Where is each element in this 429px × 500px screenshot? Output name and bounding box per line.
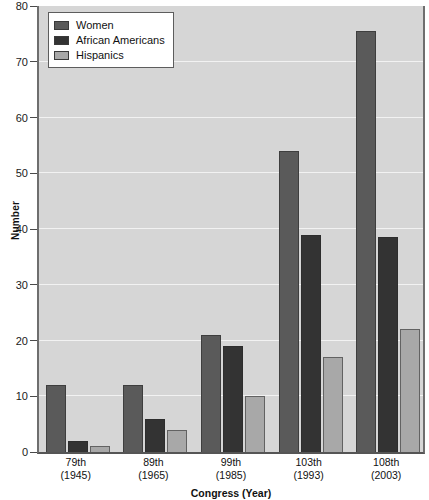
bar-chart: Number 01020304050607080 WomenAfrican Am… xyxy=(0,0,429,500)
bar xyxy=(279,151,299,452)
y-axis-tick-mark xyxy=(30,284,37,285)
y-axis-tick-label: 40 xyxy=(16,223,28,235)
bar xyxy=(201,335,221,452)
y-axis-tick-mark xyxy=(30,173,37,174)
x-axis-category-line2: (1985) xyxy=(192,469,270,482)
x-axis-title: Congress (Year) xyxy=(37,487,425,499)
x-axis-category-label: 99th(1985) xyxy=(192,456,270,482)
y-axis-tick-label: 80 xyxy=(16,0,28,12)
y-axis-tick-label: 70 xyxy=(16,56,28,68)
y-axis-tick-mark xyxy=(30,229,37,230)
bar xyxy=(356,31,376,452)
bar xyxy=(123,385,143,452)
x-axis-category-line1: 89th xyxy=(143,456,163,468)
x-axis-category-label: 79th(1945) xyxy=(37,456,115,482)
y-axis-tick-label: 60 xyxy=(16,112,28,124)
x-axis-category-line1: 99th xyxy=(221,456,241,468)
bar xyxy=(68,441,88,452)
bar xyxy=(301,235,321,452)
x-axis-category-label: 103th(1993) xyxy=(270,456,348,482)
y-axis-tick-label: 50 xyxy=(16,167,28,179)
bar-group xyxy=(356,6,420,452)
legend-swatch-icon xyxy=(54,21,69,30)
bar xyxy=(223,346,243,452)
bar xyxy=(378,237,398,452)
bars-layer xyxy=(39,6,423,452)
legend-item-label: African Americans xyxy=(76,34,165,46)
y-axis-tick-mark xyxy=(30,396,37,397)
y-axis-tick-label: 10 xyxy=(16,390,28,402)
x-axis-category-label: 89th(1965) xyxy=(115,456,193,482)
bar xyxy=(90,446,110,452)
y-axis-tick-label: 20 xyxy=(16,335,28,347)
bar xyxy=(400,329,420,452)
bar-group xyxy=(279,6,343,452)
legend-item: African Americans xyxy=(54,33,165,47)
x-axis-category-line1: 79th xyxy=(66,456,86,468)
x-axis-category-line2: (1965) xyxy=(115,469,193,482)
bar-group xyxy=(201,6,265,452)
bar-group xyxy=(46,6,110,452)
legend-swatch-icon xyxy=(54,51,69,60)
y-axis-tick-mark xyxy=(30,117,37,118)
y-axis-tick-label: 0 xyxy=(22,446,28,458)
y-axis-tick-mark xyxy=(30,6,37,7)
y-axis: 01020304050607080 xyxy=(0,0,37,460)
plot-area xyxy=(37,6,425,454)
x-axis-category-line2: (1945) xyxy=(37,469,115,482)
legend-item: Hispanics xyxy=(54,48,165,62)
legend-item-label: Women xyxy=(76,19,114,31)
y-axis-tick-mark xyxy=(30,61,37,62)
bar xyxy=(145,419,165,452)
y-axis-tick-label: 30 xyxy=(16,279,28,291)
y-axis-tick-mark xyxy=(30,452,37,453)
x-axis-category-line1: 108th xyxy=(373,456,399,468)
bar-group xyxy=(123,6,187,452)
legend-item: Women xyxy=(54,18,165,32)
x-axis-category-line2: (1993) xyxy=(270,469,348,482)
bar xyxy=(245,396,265,452)
y-axis-tick-mark xyxy=(30,340,37,341)
chart-legend: WomenAfrican AmericansHispanics xyxy=(48,12,174,68)
bar xyxy=(46,385,66,452)
legend-swatch-icon xyxy=(54,36,69,45)
bar xyxy=(167,430,187,452)
legend-item-label: Hispanics xyxy=(76,49,124,61)
bar xyxy=(323,357,343,452)
x-axis: 79th(1945)89th(1965)99th(1985)103th(1993… xyxy=(37,456,425,490)
x-axis-category-line1: 103th xyxy=(295,456,321,468)
x-axis-category-line2: (2003) xyxy=(347,469,425,482)
x-axis-category-label: 108th(2003) xyxy=(347,456,425,482)
